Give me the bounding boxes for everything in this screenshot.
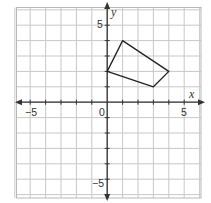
y-tick-label-5: 5 [97, 18, 103, 30]
y-tick-label-neg5: −5 [92, 177, 104, 189]
coordinate-plane: x y 0 −5 5 5 −5 [0, 0, 211, 203]
y-axis-label: y [110, 5, 117, 19]
x-axis-label: x [188, 87, 195, 101]
y-axis-up-arrow-icon [104, 2, 110, 9]
axes [15, 2, 205, 201]
x-tick-label-5: 5 [181, 106, 187, 118]
x-tick-label-neg5: −5 [25, 106, 37, 118]
origin-label: 0 [99, 106, 105, 118]
